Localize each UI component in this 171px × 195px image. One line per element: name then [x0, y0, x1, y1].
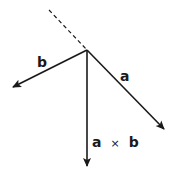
- vector-b-label: b: [37, 54, 47, 70]
- cross-product-diagram: a b a × b: [0, 0, 171, 195]
- vector-b-arrow: [13, 50, 87, 87]
- dashed-extension-line: [49, 10, 87, 50]
- cross-label-b: b: [129, 134, 139, 150]
- cross-label-operator: ×: [111, 137, 120, 150]
- cross-product-label: a × b: [92, 132, 139, 151]
- cross-label-a: a: [92, 134, 101, 150]
- vector-a-label: a: [120, 68, 129, 84]
- vector-a-arrow: [87, 50, 164, 129]
